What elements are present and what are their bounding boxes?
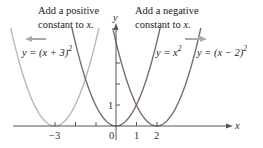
x-axis-label: x: [234, 120, 240, 131]
y-axis-arrow-icon: [114, 23, 119, 30]
arrow-left-icon: [25, 36, 46, 42]
x-tick-label-2: 2: [154, 130, 159, 141]
graph-figure: −3 0 1 2 1 x y Add a positive constant t…: [0, 0, 263, 148]
x-axis-arrow-icon: [226, 124, 233, 129]
x-tick-label-neg3: −3: [49, 130, 60, 141]
annotation-left-line2: constant to x.: [38, 19, 94, 30]
curve-label-left: y = (x + 3)2: [21, 44, 72, 59]
curve-label-mid: y = x2: [155, 44, 182, 58]
curve-x-plus-3-squared: [11, 28, 99, 126]
x-tick-label-0: 0: [109, 130, 114, 141]
curve-label-right: y = (x − 2)2: [196, 44, 247, 59]
annotation-left-line1: Add a positive: [38, 5, 100, 16]
y-ticks: [116, 63, 120, 105]
annotation-right-line1: Add a negative: [135, 5, 199, 16]
y-axis-label: y: [112, 12, 118, 23]
arrow-right-icon: [185, 36, 207, 42]
x-tick-label-1: 1: [134, 130, 139, 141]
x-ticks: [55, 122, 157, 126]
annotation-right-line2: constant to x.: [135, 19, 191, 30]
y-tick-label-1: 1: [108, 100, 113, 111]
